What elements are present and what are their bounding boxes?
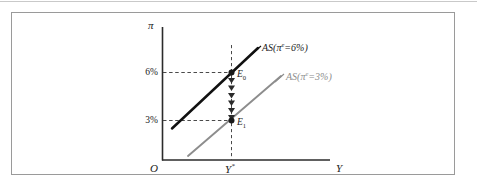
as-low-value: 3% <box>315 71 328 82</box>
as-curve-low <box>188 76 281 156</box>
point-marker-e0 <box>229 70 235 76</box>
y-axis-label: π <box>148 20 154 31</box>
as-curve-low-label: AS(πe=3%) <box>286 71 332 82</box>
point-label-e0: E0 <box>237 70 246 81</box>
as-low-prefix: AS( <box>286 71 300 82</box>
x-axis-label: Y <box>336 163 342 174</box>
as-low-suffix: ) <box>328 71 331 82</box>
y-tick-label-6pct: 6% <box>134 68 158 78</box>
as-high-prefix: AS( <box>262 42 276 53</box>
point-label-e1: E1 <box>237 118 246 129</box>
as-high-suffix: ) <box>304 42 307 53</box>
origin-label: O <box>150 163 158 174</box>
y-tick-label-3pct: 3% <box>134 116 158 126</box>
diagram-canvas <box>0 0 477 194</box>
as-low-leader <box>275 74 284 82</box>
as-curve-high-label: AS(πe=6%) <box>262 42 308 53</box>
as-high-value: 6% <box>291 42 304 53</box>
as-high-leader <box>252 46 261 54</box>
point-e0-sub: 0 <box>243 74 246 81</box>
x-tick-label-ystar: Y* <box>225 163 235 175</box>
as-curve-high <box>172 48 258 129</box>
x-tick-star: * <box>231 162 235 170</box>
figure-root: π Y O 6% 3% Y* AS(πe=6%) AS(πe=3%) E0 E1 <box>0 0 477 194</box>
point-e1-sub: 1 <box>243 122 246 129</box>
point-marker-e1 <box>229 118 235 124</box>
